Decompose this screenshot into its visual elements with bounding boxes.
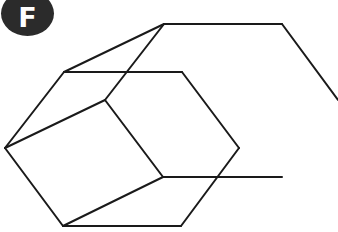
diagram-edge xyxy=(182,72,239,148)
diagram-edge xyxy=(282,24,338,100)
wireframe-polyhedron-diagram xyxy=(0,0,338,232)
diagram-edge xyxy=(64,24,164,72)
diagram-edge xyxy=(181,148,239,226)
diagram-edge xyxy=(105,100,163,177)
diagram-edge xyxy=(5,72,64,148)
diagram-edge xyxy=(105,24,164,100)
diagram-edge xyxy=(63,177,163,226)
diagram-edge xyxy=(5,148,63,226)
diagram-edges xyxy=(5,24,338,226)
diagram-edge xyxy=(5,100,105,148)
